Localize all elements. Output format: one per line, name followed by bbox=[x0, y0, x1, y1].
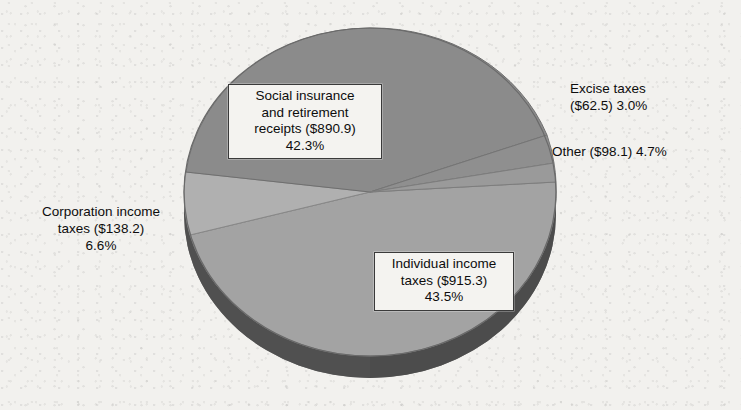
pie-label-corporation-income-taxes: Corporation income taxes ($138.2) 6.6% bbox=[18, 203, 184, 254]
pie-label-other: Other ($98.1) 4.7% bbox=[552, 143, 732, 160]
pie-label-social-insurance: Social insurance and retirement receipts… bbox=[228, 84, 382, 159]
pie-label-individual-income-taxes: Individual income taxes ($915.3) 43.5% bbox=[374, 252, 514, 311]
pie-label-excise-taxes: Excise taxes ($62.5) 3.0% bbox=[570, 80, 730, 114]
pie-chart-figure: Social insurance and retirement receipts… bbox=[0, 0, 741, 410]
